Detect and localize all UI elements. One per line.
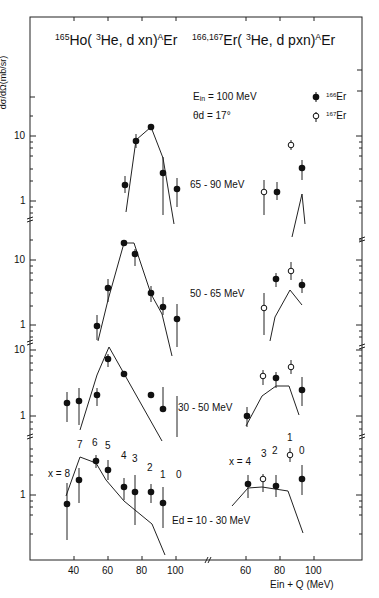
title-left-main: Ho( <box>69 32 95 48</box>
x-axis-label: Ein + Q (MeV) <box>270 580 334 590</box>
title-left-end: Er <box>163 32 177 48</box>
legend-markers <box>313 92 320 122</box>
mult-left-x8: x = 8 <box>48 469 70 479</box>
mult-right-0: 0 <box>299 446 305 456</box>
title-right-end: Er <box>321 32 335 48</box>
panel-label-30-50: 30 - 50 MeV <box>178 403 232 413</box>
panel-label-65-90: 65 - 90 MeV <box>190 180 244 190</box>
mult-left-0: 0 <box>176 470 182 480</box>
mult-right-3: 3 <box>261 449 267 459</box>
legend-167-label: Er <box>336 110 346 121</box>
title-right-mass: 166,167 <box>192 32 223 42</box>
mult-left-4: 4 <box>121 451 127 461</box>
x-tick-left-100: 100 <box>167 566 184 576</box>
legend-167-mass: 167 <box>326 110 336 117</box>
mult-left-1: 1 <box>160 470 166 480</box>
title-right-main: Er( <box>223 32 246 48</box>
legend-166-mass: 166 <box>326 91 336 98</box>
mult-left-3: 3 <box>132 454 138 464</box>
calc-lines <box>66 127 305 555</box>
y-tick-p3-1: 1 <box>20 411 26 421</box>
chart-figure <box>0 0 379 598</box>
detection-angle: θd = 17° <box>193 111 231 121</box>
mult-left-2: 2 <box>147 463 153 473</box>
legend-166-label: Er <box>336 91 346 102</box>
ein-symbol: E <box>193 91 200 102</box>
y-tick-p3-10: 10 <box>14 345 25 355</box>
panel-label-10-30: Ed = 10 - 30 MeV <box>172 516 250 526</box>
mult-left-7: 7 <box>77 440 83 450</box>
top-ticks <box>74 17 314 21</box>
x-tick-right-60: 60 <box>240 566 251 576</box>
title-left: 165Ho( 3He, d xn)AEr <box>55 33 177 47</box>
title-left-mass: 165 <box>55 32 69 42</box>
bottom-ticks <box>74 556 314 560</box>
x-tick-left-80: 80 <box>136 566 147 576</box>
mult-left-6: 6 <box>92 438 98 448</box>
mult-right-2: 2 <box>272 446 278 456</box>
y-tick-p2-10: 10 <box>14 255 25 265</box>
x-tick-right-80: 80 <box>274 566 285 576</box>
title-right-rest: He, d pxn) <box>251 32 316 48</box>
filled-data-points <box>64 124 306 508</box>
legend-166er: 166Er <box>326 92 346 102</box>
y-axis-label: dσ/dΩ(mb/sr) <box>0 56 8 109</box>
legend-167er: 167Er <box>326 111 346 121</box>
right-y-ticks <box>356 70 365 534</box>
x-tick-left-60: 60 <box>102 566 113 576</box>
left-y-ticks <box>30 97 36 534</box>
x-tick-left-40: 40 <box>68 566 79 576</box>
y-tick-p4-1: 1 <box>20 490 26 500</box>
panel-label-50-65: 50 - 65 MeV <box>190 289 244 299</box>
title-right: 166,167Er( 3He, d pxn)AEr <box>192 33 335 47</box>
mult-right-x4: x = 4 <box>229 457 251 467</box>
y-tick-p2-1: 1 <box>20 320 26 330</box>
title-left-rest: He, d xn) <box>101 32 158 48</box>
x-tick-right-100: 100 <box>305 566 322 576</box>
mult-left-5: 5 <box>105 441 111 451</box>
ein-value: = 100 MeV <box>205 91 256 102</box>
mult-right-1: 1 <box>287 433 293 443</box>
beam-energy: Ein = 100 MeV <box>193 92 257 102</box>
error-bars <box>67 134 302 540</box>
y-tick-p1-10: 10 <box>14 131 25 141</box>
y-tick-p1-1: 1 <box>20 196 26 206</box>
